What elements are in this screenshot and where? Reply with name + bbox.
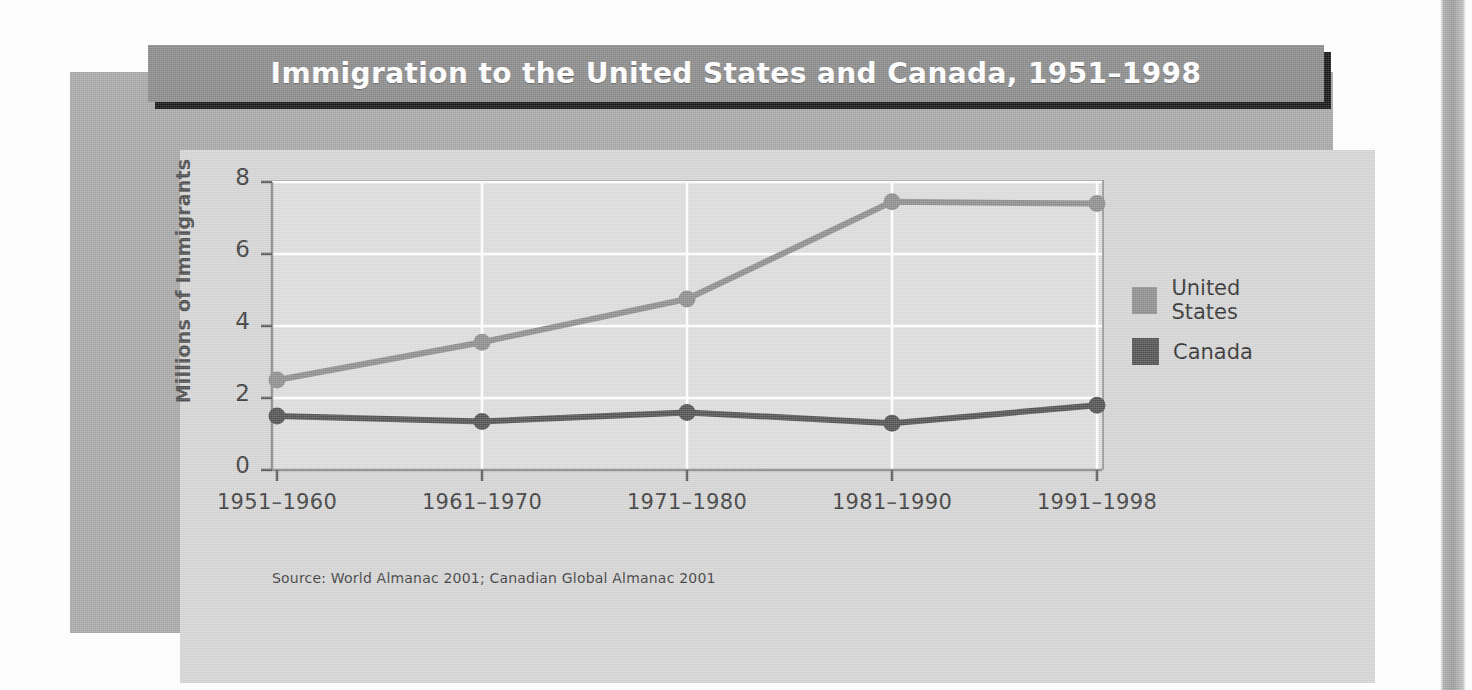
legend-label-canada: Canada xyxy=(1173,340,1253,364)
legend-item-canada: Canada xyxy=(1132,338,1305,365)
y-tick-label: 0 xyxy=(210,452,250,478)
x-tick-label: 1961–1970 xyxy=(407,490,557,514)
y-tick-label: 8 xyxy=(210,164,250,190)
gridlines xyxy=(272,182,1102,470)
x-tick-label: 1951–1960 xyxy=(202,490,352,514)
chart-legend: United States Canada xyxy=(1132,276,1305,379)
chart-region: Millions of Immigrants 02468 1951–196019… xyxy=(110,78,1305,611)
y-tick-label: 6 xyxy=(210,236,250,262)
legend-label-united-states: United States xyxy=(1171,276,1305,324)
x-axis-ticks xyxy=(277,470,1097,481)
y-tick-label: 4 xyxy=(210,308,250,334)
figure-page: Immigration to the United States and Can… xyxy=(0,0,1472,690)
legend-swatch-icon-canada xyxy=(1132,338,1159,365)
x-tick-label: 1981–1990 xyxy=(817,490,967,514)
y-tick-label: 2 xyxy=(210,380,250,406)
legend-item-united-states: United States xyxy=(1132,276,1305,324)
legend-swatch-icon-united-states xyxy=(1132,287,1157,314)
y-axis-ticks xyxy=(261,182,272,470)
plot-area xyxy=(272,180,1104,470)
source-note: Source: World Almanac 2001; Canadian Glo… xyxy=(272,570,716,586)
page-gutter-strip xyxy=(1440,0,1466,690)
x-tick-label: 1991–1998 xyxy=(1022,490,1172,514)
y-axis-title: Millions of Immigrants xyxy=(172,151,194,411)
x-tick-label: 1971–1980 xyxy=(612,490,762,514)
plot-svg xyxy=(272,182,1102,470)
